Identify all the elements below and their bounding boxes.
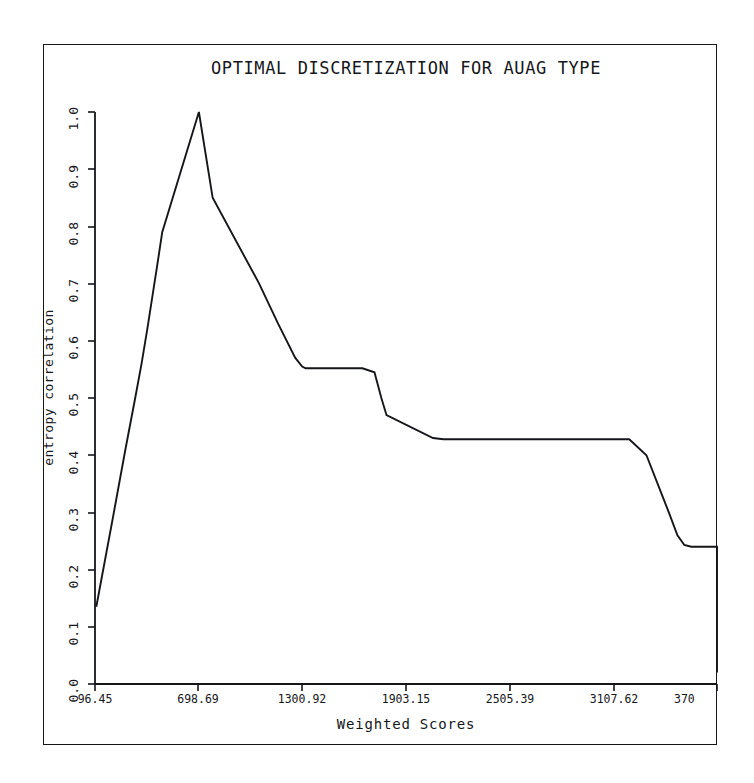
y-tick-label-9: 0.9 <box>66 155 81 189</box>
figure-canvas: OPTIMAL DISCRETIZATION FOR AUAG TYPE ent… <box>0 0 754 783</box>
y-tick-label-10: 1.0 <box>66 97 81 131</box>
y-tick-label-6: 0.6 <box>66 326 81 360</box>
y-tick-label-8: 0.8 <box>66 212 81 246</box>
y-axis-label: entropy correlation <box>41 278 56 498</box>
x-tick-label-3: 1903.15 <box>371 692 441 706</box>
y-tick-label-1: 0.1 <box>66 612 81 646</box>
y-tick-label-2: 0.2 <box>66 555 81 589</box>
x-tick-label-5: 3107.62 <box>579 692 649 706</box>
y-tick-label-7: 0.7 <box>66 269 81 303</box>
x-tick-label-4: 2505.39 <box>475 692 545 706</box>
x-tick-label-2: 1300.92 <box>267 692 337 706</box>
y-tick-label-4: 0.4 <box>66 441 81 475</box>
x-tick-label-6: 370 <box>674 692 724 706</box>
x-tick-label-1: 698.69 <box>163 692 233 706</box>
y-tick-label-3: 0.3 <box>66 498 81 532</box>
chart-title: OPTIMAL DISCRETIZATION FOR AUAG TYPE <box>95 58 717 78</box>
x-axis-label: Weighted Scores <box>95 716 717 732</box>
figure-frame-border <box>43 44 717 745</box>
y-tick-label-5: 0.5 <box>66 383 81 417</box>
x-tick-label-0: 96.45 <box>60 692 130 706</box>
